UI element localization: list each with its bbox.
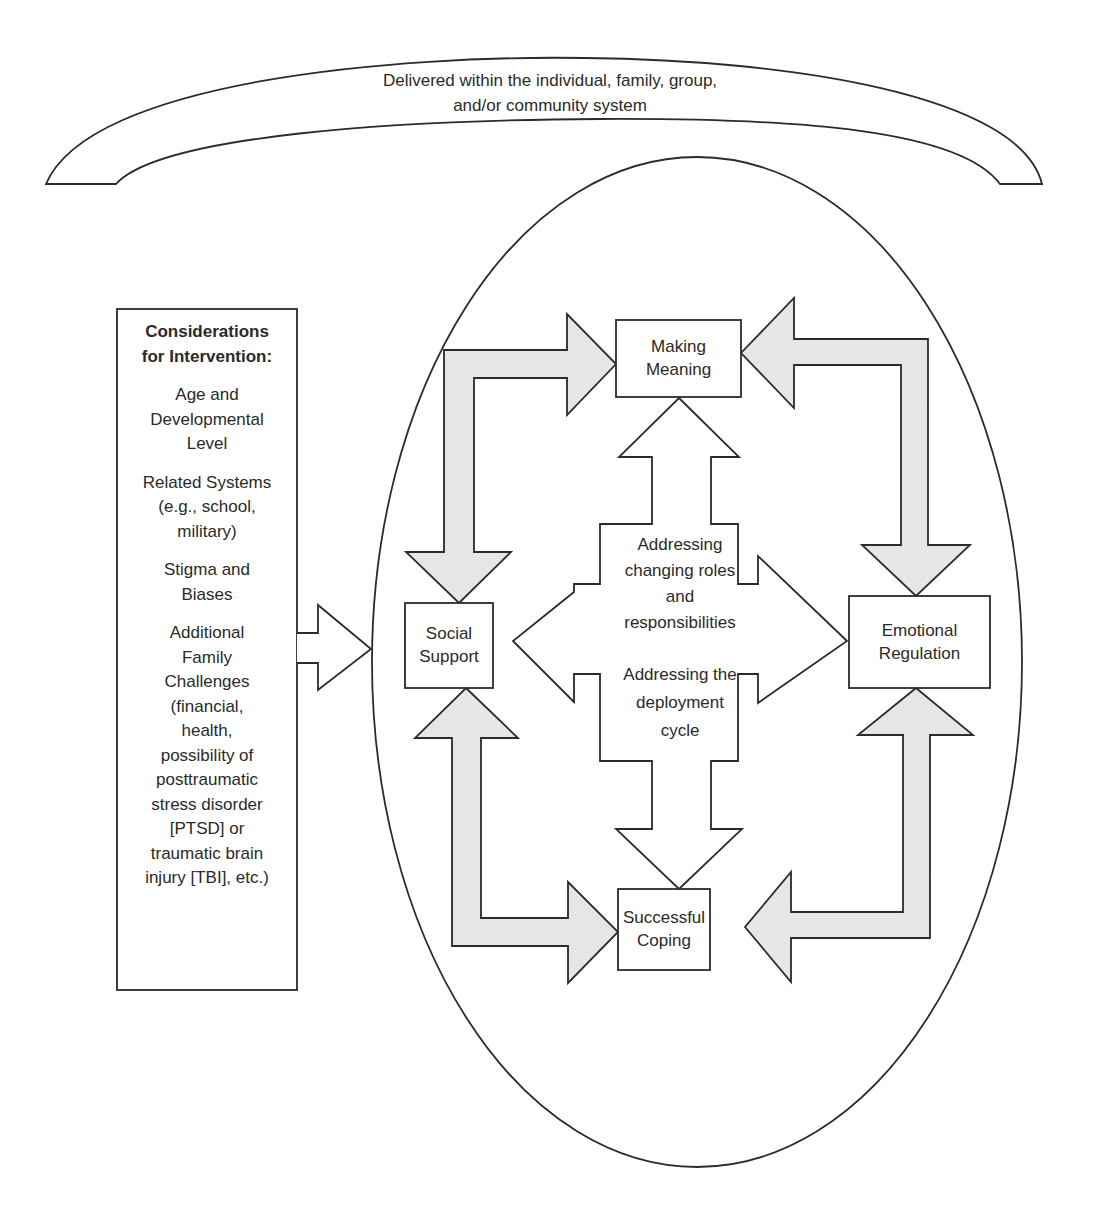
node-label: Successful	[618, 906, 710, 929]
consideration-line: (financial,	[117, 695, 297, 720]
arc-line: and/or community system	[300, 93, 800, 118]
consideration-item-related-systems: Related Systems (e.g., school, military)	[117, 471, 297, 545]
center-line: Addressing the	[590, 661, 770, 689]
considerations-title: Considerations	[117, 320, 297, 345]
consideration-line: Stigma and	[117, 558, 297, 583]
consideration-line: possibility of	[117, 744, 297, 769]
consideration-line: Level	[117, 432, 297, 457]
center-roles-label: Addressing changing roles and responsibi…	[590, 532, 770, 636]
consideration-line: Related Systems	[117, 471, 297, 496]
system-arc-label: Delivered within the individual, family,…	[300, 68, 800, 118]
center-line: changing roles	[590, 558, 770, 584]
input-arrow	[297, 605, 371, 690]
center-line: and	[590, 584, 770, 610]
consideration-item-stigma: Stigma and Biases	[117, 558, 297, 607]
node-label: Support	[405, 645, 493, 668]
consideration-line: Family	[117, 646, 297, 671]
consideration-item-age: Age and Developmental Level	[117, 383, 297, 457]
consideration-line: health,	[117, 719, 297, 744]
center-deployment-label: Addressing the deployment cycle	[590, 661, 770, 745]
center-line: Addressing	[590, 532, 770, 558]
node-label: Making	[616, 335, 741, 358]
consideration-line: traumatic brain	[117, 842, 297, 867]
consideration-line: stress disorder	[117, 793, 297, 818]
node-successful-coping: Successful Coping	[618, 906, 710, 952]
consideration-item-family-challenges: Additional Family Challenges (financial,…	[117, 621, 297, 891]
consideration-line: [PTSD] or	[117, 817, 297, 842]
center-line: cycle	[590, 717, 770, 745]
node-emotional-regulation: Emotional Regulation	[849, 619, 990, 665]
node-label: Meaning	[616, 358, 741, 381]
center-line: deployment	[590, 689, 770, 717]
consideration-line: (e.g., school,	[117, 495, 297, 520]
consideration-line: Additional	[117, 621, 297, 646]
consideration-line: Challenges	[117, 670, 297, 695]
arc-line: Delivered within the individual, family,…	[300, 68, 800, 93]
node-social-support: Social Support	[405, 622, 493, 668]
node-label: Social	[405, 622, 493, 645]
considerations-panel: Considerations for Intervention: Age and…	[117, 320, 297, 891]
node-making-meaning: Making Meaning	[616, 335, 741, 381]
node-label: Coping	[618, 929, 710, 952]
node-label: Emotional	[849, 619, 990, 642]
node-label: Regulation	[849, 642, 990, 665]
consideration-line: posttraumatic	[117, 768, 297, 793]
consideration-line: military)	[117, 520, 297, 545]
consideration-line: injury [TBI], etc.)	[117, 866, 297, 891]
considerations-title: for Intervention:	[117, 345, 297, 370]
consideration-line: Developmental	[117, 408, 297, 433]
consideration-line: Age and	[117, 383, 297, 408]
consideration-line: Biases	[117, 583, 297, 608]
center-line: responsibilities	[590, 610, 770, 636]
